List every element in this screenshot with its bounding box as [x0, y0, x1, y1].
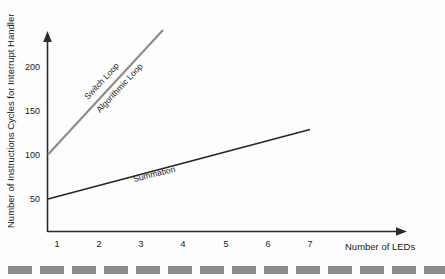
- footer-dash-segment: [72, 266, 96, 274]
- footer-dash-segment: [232, 266, 256, 274]
- x-tick-label-5: 5: [223, 239, 228, 249]
- x-tick-label-4: 4: [180, 239, 185, 249]
- y-axis-title: Number of Instructions Cycles for Interr…: [5, 14, 16, 228]
- series-line-summation: [48, 130, 310, 200]
- x-axis-title: Number of LEDs: [345, 241, 415, 252]
- y-axis: [43, 31, 52, 232]
- footer-dashed-bar: [8, 266, 445, 274]
- footer-dash-segment: [136, 266, 160, 274]
- footer-dash-segment: [264, 266, 288, 274]
- x-axis-arrow-icon: [396, 227, 407, 236]
- footer-dash-segment: [424, 266, 445, 274]
- footer-dash-segment: [40, 266, 64, 274]
- x-tick-label-2: 2: [96, 239, 101, 249]
- footer-dash-segment: [360, 266, 384, 274]
- x-axis: [48, 227, 408, 236]
- series-label-summation: Summation: [132, 164, 176, 184]
- line-chart: 200 150 100 50 1 2 3 4 5 6 7 Number of I…: [0, 0, 445, 279]
- footer-dash-segment: [104, 266, 128, 274]
- x-tick-label-3: 3: [138, 239, 143, 249]
- footer-dash-segment: [168, 266, 192, 274]
- footer-dash-segment: [328, 266, 352, 274]
- chart-page: 200 150 100 50 1 2 3 4 5 6 7 Number of I…: [0, 0, 445, 279]
- y-tick-label-100: 100: [25, 150, 40, 160]
- y-tick-label-200: 200: [25, 62, 40, 72]
- x-tick-label-1: 1: [54, 239, 59, 249]
- x-tick-label-7: 7: [307, 239, 312, 249]
- y-tick-label-150: 150: [25, 106, 40, 116]
- footer-dash-segment: [392, 266, 416, 274]
- y-tick-label-50: 50: [30, 194, 40, 204]
- footer-dash-segment: [200, 266, 224, 274]
- series-line-switch-algorithmic-loop: [48, 30, 163, 155]
- footer-dash-segment: [8, 266, 32, 274]
- y-axis-arrow-icon: [43, 31, 52, 42]
- x-tick-label-6: 6: [265, 239, 270, 249]
- footer-dash-segment: [296, 266, 320, 274]
